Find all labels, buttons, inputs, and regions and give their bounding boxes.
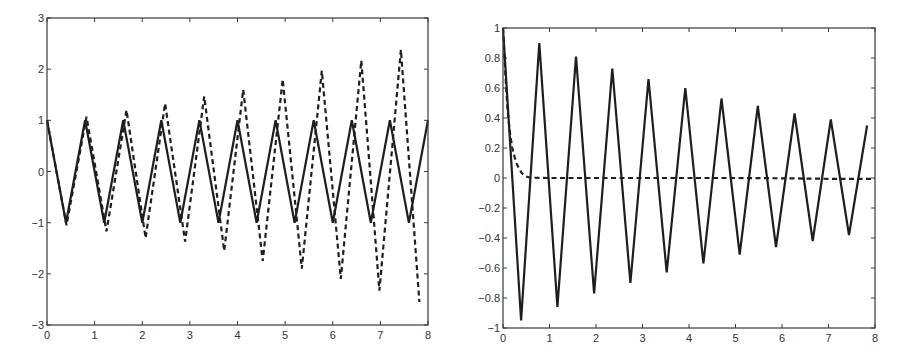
right-plot-ytick-label: 0.2 — [485, 142, 500, 154]
right-plot-ytick-label: 1 — [494, 22, 500, 34]
left-plot-xtick-label: 3 — [187, 329, 193, 341]
left-plot-ytick-label: −1 — [31, 217, 44, 229]
left-plot-ytick-label: −2 — [31, 268, 44, 280]
left-plot-ytick-label: −3 — [31, 319, 44, 331]
left-plot-ytick-label: 2 — [38, 63, 44, 75]
right-plot-ytick-label: −0.6 — [478, 262, 500, 274]
left-plot-xtick-label: 7 — [377, 329, 383, 341]
right-plot-xtick-label: 5 — [732, 332, 738, 344]
right-plot-ytick-label: −0.4 — [478, 232, 500, 244]
left-plot-ytick-label: 0 — [38, 166, 44, 178]
right-plot-xtick-label: 2 — [593, 332, 599, 344]
right-plot-xtick-label: 7 — [825, 332, 831, 344]
left-plot-ytick-label: 3 — [38, 12, 44, 24]
left-plot-xtick-label: 8 — [425, 329, 431, 341]
left-plot-xtick-label: 5 — [282, 329, 288, 341]
right-plot-ytick-label: 0 — [494, 172, 500, 184]
right-plot-xtick-label: 3 — [639, 332, 645, 344]
right-plot-xtick-label: 0 — [500, 332, 506, 344]
figure: 012345678−3−2−10123 012345678−1−0.8−0.6−… — [0, 0, 903, 358]
right-plot-xtick-label: 4 — [686, 332, 692, 344]
right-plot-xtick-label: 1 — [546, 332, 552, 344]
left-plot-xtick-label: 0 — [44, 329, 50, 341]
right-plot-ytick-label: −0.8 — [478, 292, 500, 304]
left-plot-xtick-label: 1 — [92, 329, 98, 341]
right-plot-ytick-label: 0.6 — [485, 82, 500, 94]
right-plot-xtick-label: 8 — [872, 332, 878, 344]
left-plot-xtick-label: 2 — [139, 329, 145, 341]
right-plot-ytick-label: 0.4 — [485, 112, 500, 124]
left-plot-xtick-label: 4 — [234, 329, 240, 341]
right-plot-ytick-label: −0.2 — [478, 202, 500, 214]
right-plot-ytick-label: −1 — [487, 322, 500, 334]
left-plot-ytick-label: 1 — [38, 114, 44, 126]
left-plot-xtick-label: 6 — [330, 329, 336, 341]
right-plot-xtick-label: 6 — [779, 332, 785, 344]
right-plot-ytick-label: 0.8 — [485, 52, 500, 64]
